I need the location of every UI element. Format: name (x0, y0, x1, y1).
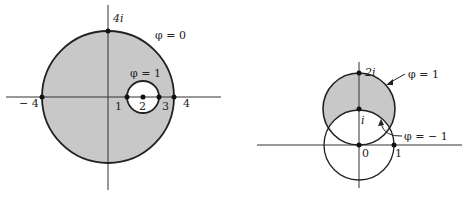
label-1: 1 (115, 100, 122, 113)
point-2i (357, 71, 362, 76)
label-2i: 2i (364, 66, 376, 79)
label-4i: 4i (112, 12, 124, 25)
arrow-phi-1-head (386, 79, 393, 85)
label-1-right: 1 (395, 147, 402, 160)
point-3 (157, 95, 162, 100)
label-neg4: − 4 (19, 97, 39, 110)
label-0: 0 (362, 147, 369, 160)
right-figure: 2i φ = 1 i φ = − 1 0 1 (257, 62, 462, 188)
point-0 (357, 143, 362, 148)
label-4: 4 (183, 97, 190, 110)
point-4 (172, 95, 177, 100)
diagram-canvas: 4i φ = 0 φ = 1 − 4 1 2 3 4 2i φ = 1 i φ … (0, 0, 462, 198)
left-figure: 4i φ = 0 φ = 1 − 4 1 2 3 4 (6, 5, 221, 190)
point-2 (141, 95, 146, 100)
point-neg4 (40, 95, 45, 100)
label-phi-1: φ = 1 (130, 67, 161, 80)
label-i: i (361, 114, 365, 127)
label-2: 2 (139, 100, 146, 113)
label-upper-phi-1: φ = 1 (408, 68, 439, 81)
label-phi-0: φ = 0 (155, 29, 186, 42)
point-4i (106, 29, 111, 34)
label-lower-phi-neg1: φ = − 1 (404, 130, 448, 143)
label-3: 3 (162, 100, 169, 113)
point-i (357, 107, 362, 112)
point-1 (125, 95, 130, 100)
